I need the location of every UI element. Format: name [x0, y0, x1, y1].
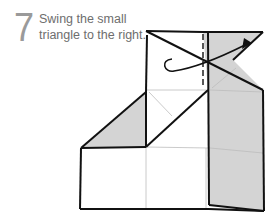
- origami-diagram: [0, 0, 278, 217]
- right-shaded-panel: [203, 31, 263, 210]
